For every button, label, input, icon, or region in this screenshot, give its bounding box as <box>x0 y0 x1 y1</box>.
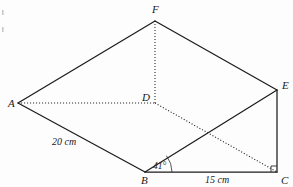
edge-be <box>145 90 277 172</box>
measurement-label-bc: 15 cm <box>205 174 229 185</box>
vertex-label-a: A <box>7 97 15 109</box>
vertex-label-f: F <box>151 3 159 15</box>
vertex-label-b: B <box>141 174 148 186</box>
edge-af <box>18 21 155 103</box>
vertex-label-e: E <box>281 79 289 91</box>
angle-label-ebc: 41° <box>153 161 167 171</box>
vertex-label-d: D <box>141 91 150 103</box>
measurement-label-ab: 20 cm <box>52 136 76 147</box>
prism-figure-svg: A B C D E F 20 cm 15 cm 41° <box>0 0 293 187</box>
geometry-diagram: A B C D E F 20 cm 15 cm 41° <box>0 0 293 187</box>
scan-speck <box>2 27 4 32</box>
vertex-label-c: C <box>281 174 289 186</box>
scan-speck <box>2 10 4 15</box>
edge-dc <box>155 103 277 172</box>
edge-fe <box>155 21 277 90</box>
scan-artifacts <box>2 10 4 32</box>
edge-ab <box>18 103 145 172</box>
